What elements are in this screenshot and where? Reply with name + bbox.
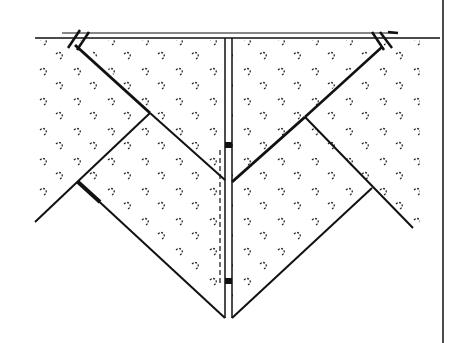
seam-mark-lower [225,278,232,284]
pattern-diagram [0,0,460,343]
seam-mark-upper [225,142,232,148]
